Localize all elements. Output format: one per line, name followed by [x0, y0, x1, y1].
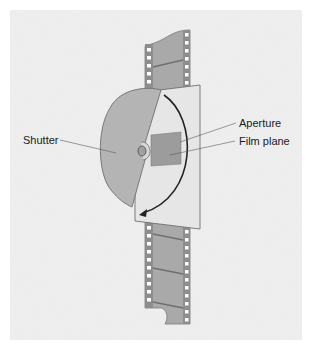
shutter-hub: [138, 146, 146, 156]
label-film-plane: Film plane: [239, 135, 290, 147]
label-aperture: Aperture: [239, 117, 281, 129]
aperture-window: [151, 132, 181, 166]
shutter-diagram: Shutter Aperture Film plane: [0, 0, 314, 347]
diagram-canvas: Shutter Aperture Film plane: [0, 0, 314, 347]
label-shutter: Shutter: [23, 134, 59, 146]
